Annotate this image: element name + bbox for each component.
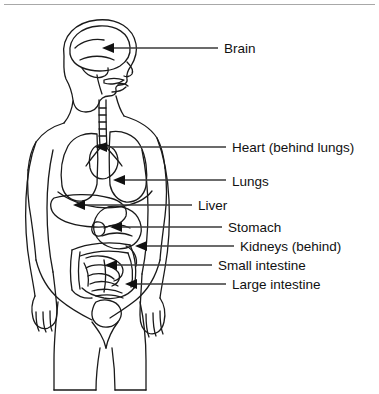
brain-fold-2 — [80, 56, 114, 60]
finger-left-3 — [50, 311, 52, 331]
arrowhead-brain — [102, 43, 114, 53]
esophagus-outline — [106, 100, 107, 148]
trachea-outline — [99, 100, 100, 146]
label-liver: Liver — [198, 198, 227, 213]
anatomy-illustration — [0, 0, 379, 394]
jaw-outline — [112, 87, 126, 92]
leg-right-inner — [112, 348, 115, 390]
label-brain: Brain — [224, 41, 256, 56]
arrowhead-small-intestine — [105, 260, 117, 270]
finger-right-1 — [146, 314, 149, 337]
small-intestine-coil-3 — [88, 274, 114, 279]
label-large-intestine: Large intestine — [232, 277, 321, 292]
liver-outline — [51, 195, 127, 228]
label-lungs: Lungs — [232, 174, 269, 189]
arm-right-outline — [157, 138, 169, 298]
brain-fold-1 — [75, 39, 104, 48]
label-kidneys: Kidneys (behind) — [240, 239, 341, 254]
small-intestine-coil-5 — [92, 289, 122, 293]
neck-left-outline — [64, 101, 73, 123]
diagram-page: BrainHeart (behind lungs)LungsLiverStoma… — [0, 0, 379, 394]
lung-right-outline — [109, 132, 147, 203]
torso-left-outline — [28, 170, 36, 260]
stomach-rugae-2 — [102, 233, 132, 236]
arrowhead-lungs — [113, 175, 125, 185]
label-small-intestine: Small intestine — [218, 258, 306, 273]
leg-right-outline — [140, 302, 146, 390]
cecum-outline — [72, 290, 92, 298]
lung-left-outline — [61, 134, 98, 202]
label-stomach: Stomach — [228, 220, 281, 235]
label-heart: Heart (behind lungs) — [232, 140, 354, 155]
head-outline — [64, 20, 137, 112]
finger-right-2 — [153, 313, 156, 336]
finger-left-1 — [36, 312, 39, 331]
arrowhead-stomach — [110, 222, 122, 232]
shoulder-left-outline — [28, 123, 64, 170]
colon-ascending-inner — [79, 252, 81, 289]
small-intestine-coil-8 — [104, 260, 106, 292]
neck-right-outline — [116, 96, 124, 116]
colon-transverse-inner — [80, 251, 128, 256]
colon-ascending — [71, 250, 73, 290]
arrowhead-heart — [95, 142, 107, 152]
leg-left-inner — [96, 348, 100, 390]
